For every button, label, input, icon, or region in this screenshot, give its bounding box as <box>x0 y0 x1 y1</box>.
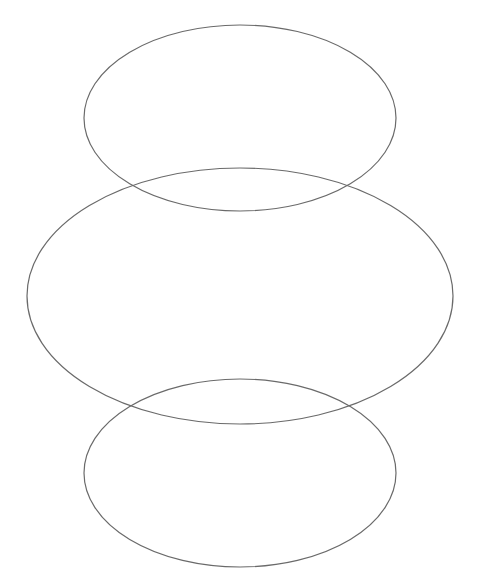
middle-ellipse <box>27 168 453 424</box>
bottom-ellipse <box>84 379 396 567</box>
diagram-canvas <box>0 0 482 588</box>
top-ellipse <box>84 25 396 211</box>
